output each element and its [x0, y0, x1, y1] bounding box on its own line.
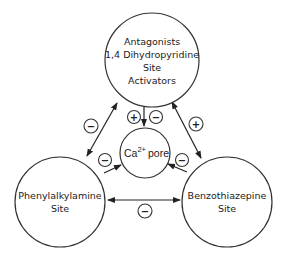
right-line-2: Site [218, 203, 236, 214]
svg-text:+: + [130, 112, 138, 123]
right-line-1: Benzothiazepine [188, 190, 267, 201]
left-line-1: Phenylalkylamine [18, 190, 101, 201]
sign-right-pore: − [176, 154, 189, 167]
dihydropyridine-site-node: Antagonists 1,4 Dihydropyridine Site Act… [105, 13, 199, 107]
top-line-1: Antagonists [124, 36, 180, 47]
svg-text:−: − [87, 121, 95, 132]
binding-site-diagram: Antagonists 1,4 Dihydropyridine Site Act… [0, 0, 283, 266]
top-line-2: 1,4 Dihydropyridine [105, 49, 199, 60]
sign-left-pore: − [99, 154, 112, 167]
svg-text:−: − [141, 206, 149, 217]
sign-left-right: − [138, 204, 152, 218]
top-line-3: Site [143, 62, 161, 73]
benzothiazepine-site-node: Benzothiazepine Site [182, 157, 272, 247]
svg-text:−: − [101, 155, 109, 166]
sign-top-pore-minus: − [150, 111, 163, 124]
sign-top-left: − [84, 119, 98, 133]
svg-text:−: − [152, 112, 160, 123]
sign-top-right: + [189, 117, 203, 131]
svg-text:−: − [178, 155, 186, 166]
svg-text:+: + [192, 119, 200, 130]
top-line-4: Activators [128, 75, 176, 86]
left-line-2: Site [51, 203, 69, 214]
sign-top-pore-plus: + [128, 111, 141, 124]
phenylalkylamine-site-node: Phenylalkylamine Site [15, 157, 105, 247]
calcium-pore-node: Ca2+pore [120, 128, 170, 178]
